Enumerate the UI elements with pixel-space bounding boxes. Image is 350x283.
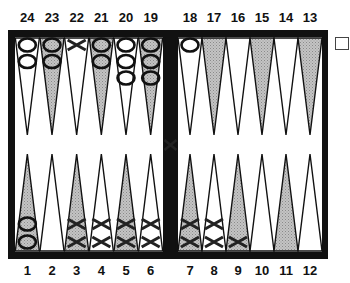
doubling-cube[interactable] xyxy=(335,37,349,50)
right-half xyxy=(178,37,322,252)
left-half xyxy=(15,37,163,252)
backgammon-board xyxy=(0,0,350,283)
